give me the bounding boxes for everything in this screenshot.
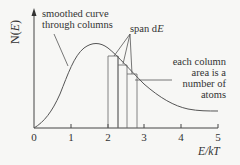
annotation-curve-line2: through columns	[42, 19, 113, 30]
x-axis-label: E/kT	[198, 146, 220, 157]
annotation-area-line2: area is a	[170, 67, 226, 78]
y-axis-arrow-icon	[32, 8, 37, 16]
annotation-curve: smoothed curve through columns	[42, 8, 113, 30]
x-tick-label-5: 5	[215, 131, 221, 143]
annotation-curve-line1: smoothed curve	[42, 8, 113, 19]
y-label-close: )	[8, 20, 22, 24]
annotation-span: span dE	[130, 23, 164, 34]
x-tick-label-0: 0	[31, 131, 37, 143]
annotation-span-var: E	[157, 23, 163, 34]
annotation-area: each column area is a number of atoms	[170, 56, 226, 100]
annotation-area-line4: atoms	[170, 89, 226, 100]
leader-span-3	[130, 34, 132, 74]
y-axis-label: N(E)	[10, 20, 21, 44]
annotation-span-text: span d	[130, 23, 157, 34]
x-tick-label-3: 3	[141, 131, 147, 143]
x-tick-label-1: 1	[68, 131, 74, 143]
x-tick-label-2: 2	[105, 131, 111, 143]
y-label-text: N(	[8, 31, 22, 44]
annotation-area-line3: number of	[170, 78, 226, 89]
annotation-area-line1: each column	[160, 56, 226, 67]
y-label-var: E	[8, 24, 22, 31]
leader-curve	[54, 34, 68, 66]
x-ticks	[71, 124, 218, 128]
x-tick-label-4: 4	[178, 131, 184, 143]
columns	[108, 56, 137, 128]
